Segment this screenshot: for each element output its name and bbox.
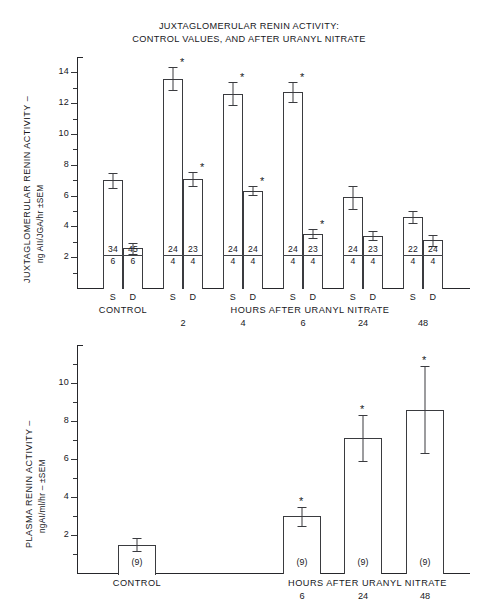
- error-bar-stem: [173, 67, 174, 91]
- bar: [183, 179, 203, 289]
- significance-asterisk: *: [200, 163, 204, 171]
- bar-n-count: 244: [423, 244, 443, 266]
- bar: [103, 180, 123, 289]
- bar-n-count-top: 24: [283, 244, 303, 256]
- x-axis-time-label: 6: [283, 591, 321, 601]
- error-bar-cap-upper: [429, 235, 438, 236]
- bar-n-count: 456: [123, 244, 143, 266]
- y-tick-minor: [73, 88, 77, 89]
- error-bar-cap-lower: [169, 90, 178, 91]
- error-bar-cap-upper: [409, 211, 418, 212]
- significance-asterisk: *: [320, 220, 324, 228]
- bar-n-count-bottom: 6: [103, 256, 123, 267]
- bar-n-count: 244: [243, 244, 263, 266]
- bar-n-count-bottom: 4: [223, 256, 243, 267]
- error-bar-cap-lower: [133, 551, 142, 552]
- significance-asterisk: *: [300, 73, 304, 81]
- y-tick-minor: [73, 364, 77, 365]
- bar: [343, 197, 363, 289]
- y-tick-major: [71, 257, 77, 258]
- error-bar-cap-lower: [189, 186, 198, 187]
- error-bar-cap-lower: [421, 453, 430, 454]
- y-tick-minor: [73, 242, 77, 243]
- bar-n-count: 234: [303, 244, 323, 266]
- y-tick-minor: [73, 402, 77, 403]
- x-axis-time-label: 2: [163, 318, 203, 328]
- y-tick-major: [71, 459, 77, 460]
- x-axis-subgroup-label: S: [103, 292, 123, 302]
- y-axis-title-line-1: JUXTAGLOMERULAR RENIN ACTIVITY –: [22, 96, 32, 283]
- error-bar: [343, 186, 363, 210]
- bar: [243, 191, 263, 289]
- bar-n-count-bottom: 4: [303, 256, 323, 267]
- error-bar-cap-lower: [229, 105, 238, 106]
- error-bar: [163, 67, 183, 91]
- y-tick-major: [71, 103, 77, 104]
- x-axis-time-label: 24: [343, 318, 383, 328]
- error-bar-stem: [293, 82, 294, 103]
- x-axis-subgroup-label: S: [283, 292, 303, 302]
- y-tick-major: [71, 497, 77, 498]
- error-bar-cap-upper: [109, 173, 118, 174]
- bar-n-count: (9): [406, 557, 444, 567]
- y-axis-tick-label: 14: [47, 66, 69, 76]
- y-axis-tick-label: 2: [47, 251, 69, 261]
- error-bar-cap-upper: [133, 538, 142, 539]
- error-bar-cap-upper: [359, 415, 368, 416]
- y-tick-major: [71, 383, 77, 384]
- bar-n-count: 244: [223, 244, 243, 266]
- y-axis-tick-label: 8: [47, 159, 69, 169]
- y-axis-line: [77, 345, 78, 574]
- error-bar-cap-lower: [409, 223, 418, 224]
- x-axis-subgroup-label: D: [423, 292, 443, 302]
- error-bar-cap-lower: [309, 238, 318, 239]
- x-axis-title: HOURS AFTER URANYL NITRATE: [180, 305, 440, 315]
- x-axis-time-label: 48: [406, 591, 444, 601]
- error-bar: [303, 229, 323, 239]
- x-axis-subgroup-label: D: [303, 292, 323, 302]
- chart-jga-renin-activity: 2468101214JUXTAGLOMERULAR RENIN ACTIVITY…: [0, 0, 498, 325]
- bar-n-count: (9): [118, 557, 156, 567]
- y-axis-top-cap: [77, 345, 83, 346]
- error-bar-cap-upper: [421, 366, 430, 367]
- bar-n-count: (9): [344, 557, 382, 567]
- y-axis-top-cap: [77, 57, 83, 58]
- y-tick-major: [71, 165, 77, 166]
- y-tick-major: [71, 72, 77, 73]
- bar-n-count-top: 23: [303, 244, 323, 256]
- significance-asterisk: *: [360, 405, 364, 413]
- error-bar: [283, 82, 303, 103]
- x-axis-subgroup-label: D: [243, 292, 263, 302]
- y-axis-tick-label: 10: [47, 128, 69, 138]
- bar-n-count: 224: [403, 244, 423, 266]
- error-bar: [183, 172, 203, 187]
- error-bar-stem: [302, 507, 303, 527]
- error-bar-cap-upper: [189, 172, 198, 173]
- error-bar-cap-lower: [298, 526, 307, 527]
- x-axis-subgroup-label: D: [363, 292, 383, 302]
- error-bar-cap-lower: [369, 240, 378, 241]
- bar-n-count: 244: [163, 244, 183, 266]
- bar-n-count: 234: [183, 244, 203, 266]
- y-axis-tick-label: 6: [47, 453, 69, 463]
- y-axis-tick-label: 2: [47, 529, 69, 539]
- error-bar-cap-upper: [229, 82, 238, 83]
- bar-n-count-top: 23: [363, 244, 383, 256]
- y-tick-minor: [73, 554, 77, 555]
- y-axis-tick-label: 4: [47, 220, 69, 230]
- error-bar-cap-upper: [169, 67, 178, 68]
- y-axis-title-line-2: ng AII/JGA/hr ±SEM: [35, 185, 45, 263]
- y-tick-major: [71, 196, 77, 197]
- y-tick-minor: [73, 478, 77, 479]
- bar-n-count: (9): [283, 557, 321, 567]
- error-bar-cap-upper: [369, 231, 378, 232]
- error-bar: [223, 82, 243, 106]
- x-axis-subgroup-label: D: [183, 292, 203, 302]
- y-tick-major: [71, 226, 77, 227]
- bar-n-count: 346: [103, 244, 123, 266]
- error-bar-cap-lower: [349, 209, 358, 210]
- error-bar-stem: [425, 366, 426, 454]
- error-bar: [406, 366, 444, 454]
- error-bar: [403, 211, 423, 224]
- error-bar-cap-lower: [109, 188, 118, 189]
